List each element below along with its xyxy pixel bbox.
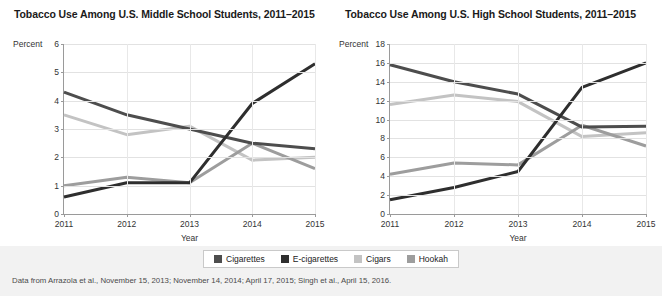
y-tick-label: 6 bbox=[54, 39, 59, 49]
y-tick-mark bbox=[61, 44, 64, 45]
x-tick-mark bbox=[127, 214, 128, 217]
x-tick-label: 2015 bbox=[637, 219, 656, 229]
chart-panel-middle-school: Tobacco Use Among U.S. Middle School Stu… bbox=[0, 0, 331, 246]
x-tick-mark bbox=[390, 214, 391, 217]
gridline-vertical bbox=[646, 44, 647, 214]
x-tick-label: 2015 bbox=[306, 219, 325, 229]
y-tick-label: 2 bbox=[54, 152, 59, 162]
y-tick-mark bbox=[387, 82, 390, 83]
y-tick-label: 3 bbox=[54, 124, 59, 134]
y-tick-mark bbox=[387, 195, 390, 196]
y-tick-label: 14 bbox=[376, 77, 385, 87]
x-tick-mark bbox=[64, 214, 65, 217]
y-tick-label: 4 bbox=[380, 171, 385, 181]
chart-legend: CigarettesE-cigarettesCigarsHookah bbox=[203, 250, 459, 268]
x-tick-label: 2014 bbox=[573, 219, 592, 229]
x-tick-label: 2013 bbox=[180, 219, 199, 229]
y-tick-mark bbox=[61, 157, 64, 158]
y-axis-title-high-school: Percent bbox=[339, 39, 368, 49]
page-title-middle-school: Tobacco Use Among U.S. Middle School Stu… bbox=[14, 8, 315, 20]
y-tick-label: 0 bbox=[380, 209, 385, 219]
y-tick-label: 2 bbox=[380, 190, 385, 200]
y-axis-title-middle-school: Percent bbox=[13, 39, 42, 49]
x-tick-mark bbox=[190, 214, 191, 217]
y-tick-mark bbox=[387, 120, 390, 121]
legend-item-label: Hookah bbox=[419, 254, 448, 264]
y-tick-label: 5 bbox=[54, 67, 59, 77]
gridline-vertical bbox=[518, 44, 519, 214]
y-tick-mark bbox=[387, 176, 390, 177]
legend-item-label: E-cigarettes bbox=[293, 254, 338, 264]
gridline-vertical bbox=[252, 44, 253, 214]
plot-area-high-school: Year 02468101214161820112012201320142015 bbox=[389, 44, 646, 215]
y-tick-mark bbox=[61, 129, 64, 130]
x-tick-mark bbox=[582, 214, 583, 217]
y-tick-mark bbox=[61, 186, 64, 187]
x-axis-title-high-school: Year bbox=[509, 233, 526, 243]
x-tick-mark bbox=[518, 214, 519, 217]
y-tick-label: 18 bbox=[376, 39, 385, 49]
gridline-vertical bbox=[582, 44, 583, 214]
x-tick-label: 2012 bbox=[445, 219, 464, 229]
y-tick-mark bbox=[387, 101, 390, 102]
legend-item-label: Cigarettes bbox=[226, 254, 265, 264]
y-tick-label: 4 bbox=[54, 96, 59, 106]
y-tick-mark bbox=[61, 101, 64, 102]
y-tick-label: 6 bbox=[380, 152, 385, 162]
legend-swatch-icon bbox=[214, 255, 222, 263]
x-tick-mark bbox=[454, 214, 455, 217]
gridline-vertical bbox=[190, 44, 191, 214]
figure-container: Tobacco Use Among U.S. Middle School Stu… bbox=[0, 0, 662, 296]
y-tick-label: 8 bbox=[380, 133, 385, 143]
x-tick-mark bbox=[315, 214, 316, 217]
y-tick-label: 0 bbox=[54, 209, 59, 219]
y-tick-mark bbox=[387, 44, 390, 45]
y-tick-label: 16 bbox=[376, 58, 385, 68]
legend-swatch-icon bbox=[281, 255, 289, 263]
gridline-vertical bbox=[127, 44, 128, 214]
y-tick-label: 10 bbox=[376, 115, 385, 125]
x-tick-label: 2013 bbox=[509, 219, 528, 229]
charts-row: Tobacco Use Among U.S. Middle School Stu… bbox=[0, 0, 662, 246]
x-tick-label: 2011 bbox=[55, 219, 73, 229]
gridline-vertical bbox=[315, 44, 316, 214]
legend-item-hookah[interactable]: Hookah bbox=[407, 254, 448, 264]
y-tick-mark bbox=[61, 72, 64, 73]
x-tick-label: 2011 bbox=[381, 219, 399, 229]
legend-item-e-cigarettes[interactable]: E-cigarettes bbox=[281, 254, 338, 264]
legend-swatch-icon bbox=[354, 255, 362, 263]
y-tick-mark bbox=[387, 138, 390, 139]
y-tick-mark bbox=[387, 63, 390, 64]
x-tick-mark bbox=[252, 214, 253, 217]
gridline-vertical bbox=[454, 44, 455, 214]
x-tick-label: 2012 bbox=[117, 219, 136, 229]
legend-item-cigars[interactable]: Cigars bbox=[354, 254, 391, 264]
source-footnote: Data from Arrazola et al., November 15, … bbox=[12, 276, 391, 285]
x-axis-title-middle-school: Year bbox=[181, 233, 198, 243]
page-title-high-school: Tobacco Use Among U.S. High School Stude… bbox=[345, 8, 636, 20]
y-tick-label: 1 bbox=[54, 181, 59, 191]
legend-item-cigarettes[interactable]: Cigarettes bbox=[214, 254, 265, 264]
plot-area-middle-school: Year 012345620112012201320142015 bbox=[63, 44, 315, 215]
x-tick-label: 2014 bbox=[243, 219, 262, 229]
x-tick-mark bbox=[646, 214, 647, 217]
legend-swatch-icon bbox=[407, 255, 415, 263]
legend-item-label: Cigars bbox=[366, 254, 391, 264]
y-tick-label: 12 bbox=[376, 96, 385, 106]
y-tick-mark bbox=[387, 157, 390, 158]
chart-panel-high-school: Tobacco Use Among U.S. High School Stude… bbox=[331, 0, 662, 246]
